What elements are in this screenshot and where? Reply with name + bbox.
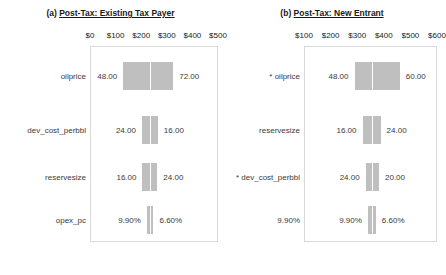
bar-value-low-reservesize: 16.00 — [321, 126, 357, 135]
tornado-bar-reservesize — [142, 163, 157, 191]
tornado-bar-opex_pc — [368, 206, 376, 234]
bar-value-high-reservesize: 24.00 — [387, 126, 423, 135]
tornado-bar-dev_cost_perbbl — [142, 116, 158, 144]
x-tick-label: $300 — [348, 31, 366, 40]
panel-a-title: (a) Post-Tax: Existing Tax Payer — [0, 8, 221, 18]
bar-segment-low — [363, 116, 372, 144]
category-label-opex_pc: opex_pc — [56, 216, 86, 225]
bar-segment-high — [372, 163, 379, 191]
bar-segment-high — [372, 62, 400, 90]
bar-segment-low — [142, 163, 150, 191]
bar-value-high-opex_pc: 6.60% — [382, 216, 418, 225]
category-label-dev_cost_perbbl: dev_cost_perbbl — [27, 126, 86, 135]
bar-value-high-oilprice: 60.00 — [406, 72, 442, 81]
bar-value-low-opex_pc: 9.90% — [105, 216, 141, 225]
bar-value-low-dev_cost_perbbl: 24.00 — [324, 173, 360, 182]
tornado-bar-reservesize — [363, 116, 381, 144]
bar-value-high-dev_cost_perbbl: 20.00 — [385, 173, 421, 182]
x-tick-label: $100 — [295, 31, 313, 40]
bar-value-low-reservesize: 16.00 — [100, 173, 136, 182]
tornado-bar-opex_pc — [147, 206, 154, 234]
category-label-reservesize: reservesize — [45, 173, 86, 182]
category-label-reservesize: reservesize — [259, 126, 300, 135]
bar-value-low-dev_cost_perbbl: 24.00 — [100, 126, 136, 135]
bar-value-high-oilprice: 72.00 — [179, 72, 215, 81]
bar-segment-high — [372, 116, 381, 144]
tornado-bar-dev_cost_perbbl — [366, 163, 379, 191]
panel-a-title-text: Post-Tax: Existing Tax Payer — [59, 8, 174, 18]
chart-panel-a: (a) Post-Tax: Existing Tax Payer $0$100$… — [0, 0, 221, 275]
x-tick-label: $100 — [107, 31, 125, 40]
bar-segment-high — [150, 62, 173, 90]
x-tick-label: $400 — [375, 31, 393, 40]
tornado-bar-oilprice — [355, 62, 400, 90]
x-tick-label: $500 — [401, 31, 419, 40]
bar-value-high-reservesize: 24.00 — [163, 173, 199, 182]
panel-a-title-number: (a) — [46, 8, 56, 18]
bar-segment-high — [150, 206, 153, 234]
x-tick-label: $400 — [183, 31, 201, 40]
x-tick-label: $600 — [428, 31, 446, 40]
x-tick-label: $200 — [322, 31, 340, 40]
tornado-bar-oilprice — [123, 62, 173, 90]
panel-b-title-number: (b) — [280, 8, 291, 18]
bar-segment-high — [150, 116, 158, 144]
category-label-opex_pc: 9.90% — [277, 216, 300, 225]
x-tick-label: $200 — [132, 31, 150, 40]
bar-value-low-oilprice: 48.00 — [81, 72, 117, 81]
category-label-dev_cost_perbbl: * dev_cost_perbbl — [236, 173, 300, 182]
chart-panel-b: (b) Post-Tax: New Entrant $100$200$300$4… — [221, 0, 443, 275]
category-label-oilprice: * oilprice — [269, 72, 300, 81]
bar-value-high-dev_cost_perbbl: 16.00 — [164, 126, 200, 135]
x-tick-label: $0 — [86, 31, 95, 40]
bar-segment-low — [142, 116, 150, 144]
x-tick-label: $300 — [158, 31, 176, 40]
bar-segment-high — [372, 206, 376, 234]
panel-b-title: (b) Post-Tax: New Entrant — [221, 8, 443, 18]
panel-a-x-axis: $0$100$200$300$400$500 — [0, 31, 221, 43]
bar-segment-low — [123, 62, 150, 90]
panel-b-x-axis: $100$200$300$400$500$600 — [221, 31, 443, 43]
bar-segment-high — [150, 163, 157, 191]
panel-b-title-text: Post-Tax: New Entrant — [294, 8, 384, 18]
bar-value-low-opex_pc: 9.90% — [326, 216, 362, 225]
bar-segment-low — [355, 62, 372, 90]
bar-value-low-oilprice: 48.00 — [313, 72, 349, 81]
bar-value-high-opex_pc: 6.60% — [159, 216, 195, 225]
